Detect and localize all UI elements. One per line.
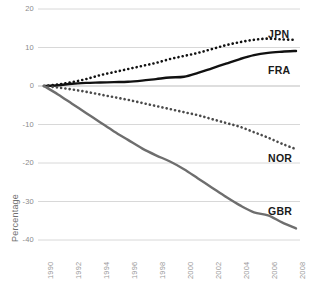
series-line-nor <box>44 86 296 149</box>
series-label-nor: NOR <box>268 152 292 164</box>
gridlines <box>38 9 300 240</box>
y-tick-label: 20 <box>12 5 34 13</box>
y-tick-label: 10 <box>12 44 34 52</box>
series-line-gbr <box>44 86 296 228</box>
x-tick-label: 2004 <box>243 262 251 280</box>
y-tick-label: 0 <box>12 82 34 90</box>
x-tick-label: 1992 <box>75 262 83 280</box>
series-label-fra: FRA <box>268 64 290 76</box>
x-tick-label: 1994 <box>103 262 111 280</box>
chart-plot-area <box>0 0 311 284</box>
x-tick-label: 2006 <box>271 262 279 280</box>
line-chart: 20 10 0 -10 -20 -30 -40 1990 1992 1994 1… <box>0 0 311 284</box>
series-label-gbr: GBR <box>268 205 292 217</box>
series-lines <box>44 39 296 229</box>
x-tick-label: 1996 <box>131 262 139 280</box>
series-label-jpn: JPN <box>268 28 289 40</box>
x-tick-label: 2002 <box>215 262 223 280</box>
x-tick-label: 1998 <box>159 262 167 280</box>
y-tick-label: -20 <box>12 159 34 167</box>
x-tick-label: 1990 <box>47 262 55 280</box>
x-tick-label: 2000 <box>187 262 195 280</box>
series-line-jpn <box>44 39 296 86</box>
x-tick-label: 2008 <box>299 262 307 280</box>
y-axis-title: Percentage <box>10 194 20 242</box>
y-tick-label: -10 <box>12 121 34 129</box>
